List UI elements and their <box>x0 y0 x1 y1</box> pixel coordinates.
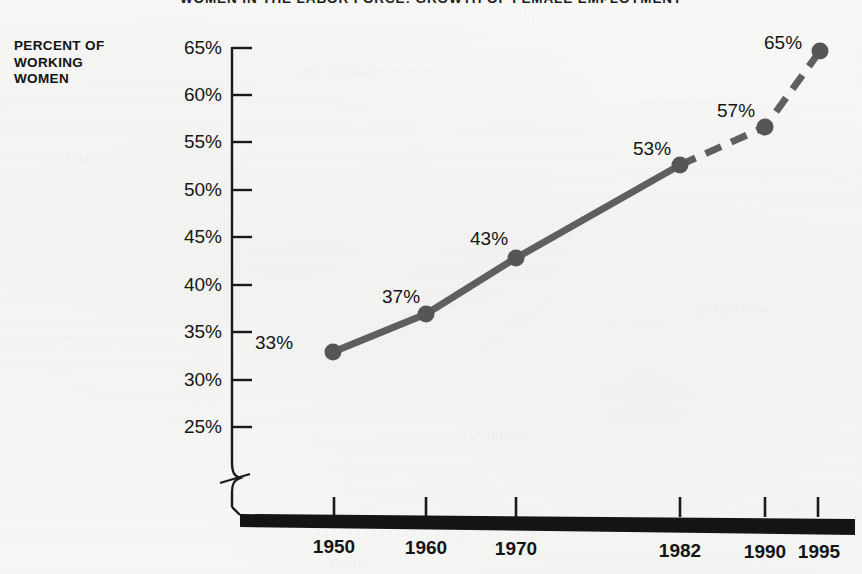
x-tick-label-1982: 1982 <box>640 540 720 562</box>
y-tick-label-65: 65% <box>148 37 222 59</box>
y-axis-ticks <box>232 48 252 427</box>
x-tick-label-1960: 1960 <box>386 537 466 559</box>
data-label-1950: 33% <box>255 332 293 354</box>
x-tick-label-1950: 1950 <box>294 536 374 558</box>
data-line-solid <box>333 165 680 352</box>
data-label-1970: 43% <box>470 228 508 250</box>
chart-page: and the numbers continue employment tren… <box>0 0 862 574</box>
y-tick-label-40: 40% <box>148 274 222 296</box>
y-tick-label-30: 30% <box>148 369 222 391</box>
data-point-markers <box>325 43 829 361</box>
y-tick-label-60: 60% <box>148 84 222 106</box>
chart-plot-area <box>0 0 862 574</box>
y-tick-label-25: 25% <box>148 416 222 438</box>
x-axis-baseline-bar <box>240 514 855 535</box>
data-point-1950 <box>325 344 342 361</box>
data-point-1970 <box>508 250 525 267</box>
data-point-1990 <box>757 119 774 136</box>
y-tick-label-45: 45% <box>148 226 222 248</box>
x-tick-label-1995: 1995 <box>779 541 859 563</box>
data-label-1982: 53% <box>633 138 671 160</box>
y-tick-label-55: 55% <box>148 131 222 153</box>
data-point-1995 <box>812 43 829 60</box>
y-axis-spine <box>232 47 240 507</box>
x-axis-ticks <box>334 497 818 517</box>
data-point-1982 <box>672 157 689 174</box>
axis-corner-connector <box>232 507 240 515</box>
data-label-1960: 37% <box>382 286 420 308</box>
y-tick-label-35: 35% <box>148 321 222 343</box>
x-tick-label-1970: 1970 <box>476 538 556 560</box>
data-point-1960 <box>418 306 435 323</box>
data-label-1990: 57% <box>717 100 755 122</box>
data-label-1995: 65% <box>764 32 802 54</box>
y-tick-label-50: 50% <box>148 179 222 201</box>
